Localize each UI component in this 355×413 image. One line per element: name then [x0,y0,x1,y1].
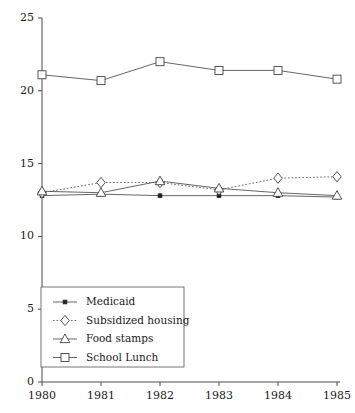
marker-diamond [97,177,105,187]
y-axis-tick-label: 5 [27,302,34,315]
marker-triangle [332,191,342,200]
series-path [42,181,337,196]
marker-square [97,77,105,85]
legend-label: School Lunch [86,351,159,363]
y-axis-tick-label: 0 [27,375,34,388]
y-axis-tick-label: 10 [20,229,34,242]
legend-label: Subsidized housing [86,314,190,326]
marker-square [156,58,164,66]
legend-label: Medicaid [86,295,136,307]
series-school-lunch [38,58,341,85]
marker-square [333,75,341,83]
marker-diamond [333,172,341,182]
series-path [42,194,337,197]
marker-square [215,66,223,74]
x-axis-tick-label: 1984 [264,389,292,402]
y-axis-tick-label: 20 [20,84,34,97]
marker-square [61,354,69,362]
series-path [42,62,337,81]
marker-triangle [155,176,165,185]
marker-dot [158,194,162,198]
marker-triangle [273,188,283,197]
y-axis-tick-label: 25 [20,11,34,24]
x-axis-tick-label: 1980 [28,389,56,402]
legend: MedicaidSubsidized housingFood stampsSch… [41,287,190,367]
x-axis-tick-label: 1982 [146,389,174,402]
x-axis-tick-label: 1983 [205,389,233,402]
chart-canvas: 0510152025198019811982198319841985Medica… [0,0,355,413]
marker-dot [63,300,67,304]
marker-square [38,71,46,79]
legend-label: Food stamps [86,332,153,344]
marker-triangle [37,186,47,195]
marker-square [274,66,282,74]
y-axis-tick-label: 15 [20,157,34,170]
x-axis-tick-label: 1985 [323,389,351,402]
line-chart: 0510152025198019811982198319841985Medica… [0,0,355,413]
x-axis-tick-label: 1981 [87,389,115,402]
marker-diamond [274,173,282,183]
